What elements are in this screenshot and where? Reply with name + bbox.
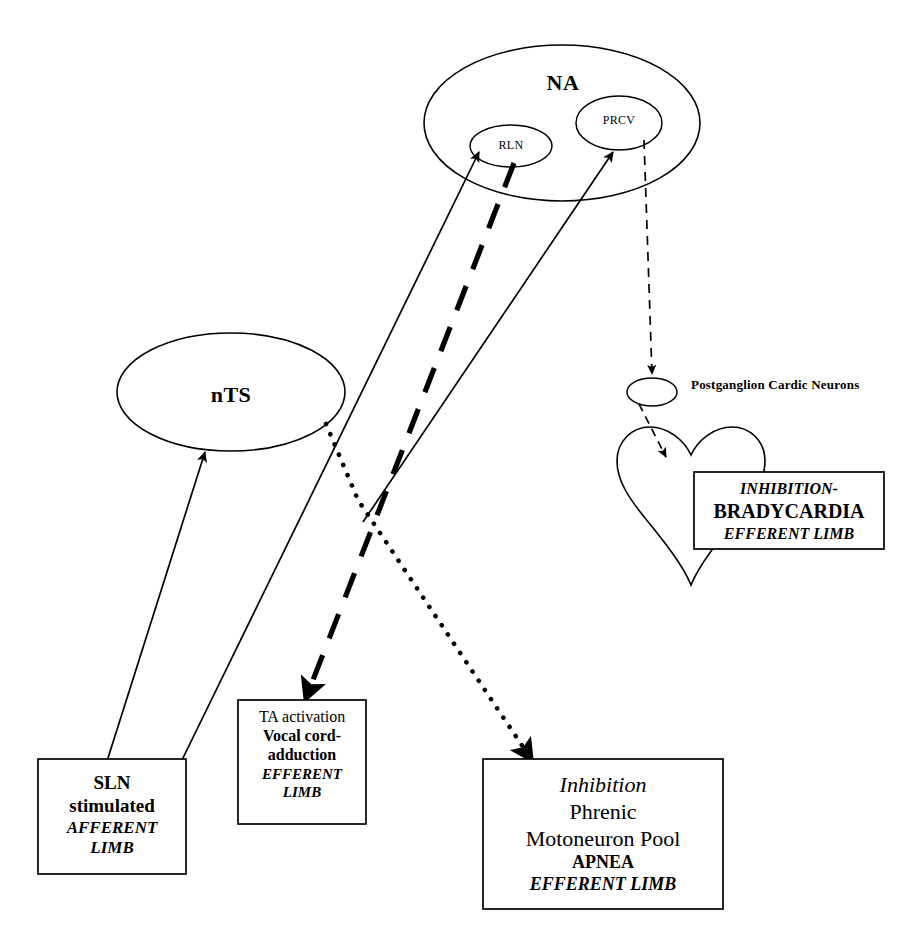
- sln-line-4: LIMB: [38, 838, 186, 858]
- rln-ellipse: [470, 125, 552, 167]
- sln-box-text: SLN stimulated AFFERENT LIMB: [38, 772, 186, 858]
- phrenic-box-text: Inhibition Phrenic Motoneuron Pool APNEA…: [483, 772, 723, 896]
- brady-line-1: INHIBITION-: [694, 479, 884, 499]
- ta-line-4: EFFERENT: [238, 765, 366, 783]
- ta-box-text: TA activation Vocal cord- adduction EFFE…: [238, 707, 366, 801]
- nts-ellipse: [117, 333, 345, 451]
- postganglion-ellipse: [627, 378, 677, 406]
- ta-line-3: adduction: [238, 745, 366, 764]
- arrow-to-prcv: [363, 152, 613, 522]
- brady-line-2: BRADYCARDIA: [694, 499, 884, 524]
- sln-line-3: AFFERENT: [38, 818, 186, 838]
- brady-line-3: EFFERENT LIMB: [694, 524, 884, 544]
- ta-line-1: TA activation: [238, 707, 366, 726]
- ta-line-2: Vocal cord-: [238, 726, 366, 745]
- arrow-rln-to-ta-activation: [306, 163, 514, 698]
- prcv-ellipse: [576, 96, 662, 150]
- diagram-canvas: NA RLN PRCV nTS Postganglion Cardic Neur…: [0, 0, 902, 947]
- phrenic-line-3: Motoneuron Pool: [483, 826, 723, 853]
- arrow-postganglion-to-heart: [639, 404, 666, 457]
- arrow-sln-to-nts: [108, 452, 205, 758]
- phrenic-line-5: EFFERENT LIMB: [483, 874, 723, 896]
- na-ellipse: [424, 45, 700, 201]
- arrow-sln-to-rln: [182, 152, 479, 760]
- sln-line-2: stimulated: [38, 795, 186, 818]
- phrenic-line-4: APNEA: [483, 852, 723, 874]
- ta-line-5: LIMB: [238, 783, 366, 801]
- sln-line-1: SLN: [38, 772, 186, 795]
- brady-box-text: INHIBITION- BRADYCARDIA EFFERENT LIMB: [694, 479, 884, 544]
- phrenic-line-1: Inhibition: [483, 772, 723, 799]
- phrenic-line-2: Phrenic: [483, 799, 723, 826]
- arrow-prcv-to-postganglion: [644, 140, 652, 374]
